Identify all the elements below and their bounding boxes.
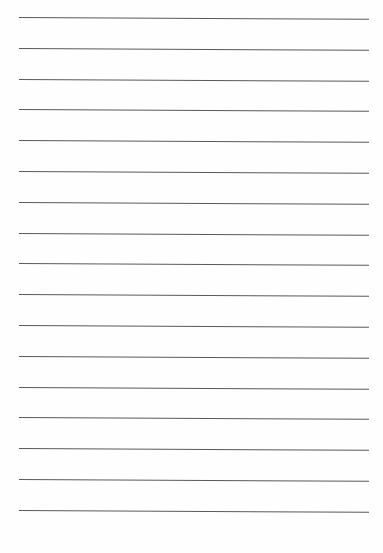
lined-paper-sheet — [0, 0, 383, 553]
ruled-line — [19, 171, 369, 174]
ruled-line — [19, 109, 369, 112]
ruled-line — [19, 387, 369, 390]
ruled-line — [19, 79, 369, 82]
ruled-line — [19, 294, 369, 297]
ruled-line — [19, 325, 369, 328]
ruled-line — [19, 479, 369, 482]
ruled-line — [19, 417, 369, 420]
ruled-line — [19, 510, 369, 513]
ruled-line — [19, 140, 369, 143]
ruled-line — [19, 233, 369, 236]
ruled-line — [19, 263, 369, 266]
ruled-line — [19, 48, 369, 51]
ruled-line — [19, 448, 369, 451]
ruled-line — [19, 202, 369, 205]
ruled-line — [19, 356, 369, 359]
ruled-line — [19, 17, 369, 20]
